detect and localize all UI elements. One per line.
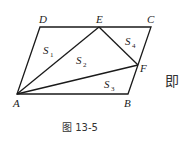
region-label-s2: S 2 xyxy=(76,54,87,69)
vertex-label-c: C xyxy=(147,13,155,25)
region-label-s4: S 4 xyxy=(125,35,136,50)
svg-text:S: S xyxy=(125,35,131,47)
figure-caption: 图 13-5 xyxy=(62,122,98,133)
geometry-diagram: D E C F A B S 1 S 2 S 3 S 4 图 13-5 即 xyxy=(0,0,183,147)
vertex-label-a: A xyxy=(12,97,20,109)
region-label-s3: S 3 xyxy=(104,78,115,93)
svg-text:S: S xyxy=(76,54,82,66)
side-text: 即 xyxy=(165,73,179,89)
svg-text:1: 1 xyxy=(50,51,54,59)
svg-text:S: S xyxy=(104,78,110,90)
vertex-label-e: E xyxy=(95,13,103,25)
vertex-label-b: B xyxy=(124,97,131,109)
vertex-label-d: D xyxy=(38,13,47,25)
vertex-label-f: F xyxy=(139,62,147,74)
svg-text:S: S xyxy=(43,44,49,56)
svg-text:4: 4 xyxy=(132,42,136,50)
svg-text:3: 3 xyxy=(111,85,115,93)
region-label-s1: S 1 xyxy=(43,44,54,59)
svg-text:2: 2 xyxy=(83,61,87,69)
